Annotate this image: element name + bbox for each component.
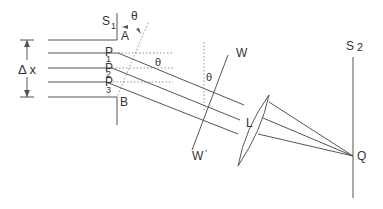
- arrowhead-down-icon: [24, 90, 30, 97]
- label-s1-sub: 1: [111, 21, 116, 31]
- label-s2: S2: [346, 40, 363, 52]
- label-w-prime-mark: ': [205, 148, 207, 158]
- label-p1: P1: [105, 46, 111, 58]
- label-p2: P2: [105, 62, 111, 74]
- label-q: Q: [357, 150, 366, 162]
- label-s2-sub: 2: [357, 41, 363, 53]
- label-p3: P3: [105, 76, 111, 88]
- label-delta-x: Δ x: [18, 63, 36, 76]
- ray-out-2: [112, 68, 240, 120]
- label-b: B: [120, 96, 128, 108]
- label-lens: L: [246, 117, 253, 129]
- label-a: A: [121, 30, 129, 42]
- theta-arrow-right-icon: [136, 28, 141, 34]
- grating-diagram: [0, 0, 383, 209]
- label-w: W: [236, 47, 247, 59]
- label-s2-main: S: [346, 39, 354, 53]
- arrowhead-up-icon: [24, 40, 30, 47]
- label-w-prime-main: W: [192, 149, 203, 163]
- label-p3-sub: 3: [106, 85, 111, 95]
- label-s1-main: S: [102, 14, 110, 28]
- lens-l: [238, 95, 269, 166]
- label-theta-wave: θ: [206, 72, 212, 83]
- label-s1: S1: [102, 15, 116, 27]
- label-theta-mid: θ: [155, 57, 161, 68]
- ray-out-1: [118, 53, 244, 105]
- ray-focus-1: [269, 102, 353, 156]
- ray-focus-3: [258, 134, 353, 156]
- label-theta-top: θ: [131, 10, 138, 22]
- label-w-prime: W': [192, 150, 207, 162]
- ray-focus-2: [263, 118, 353, 156]
